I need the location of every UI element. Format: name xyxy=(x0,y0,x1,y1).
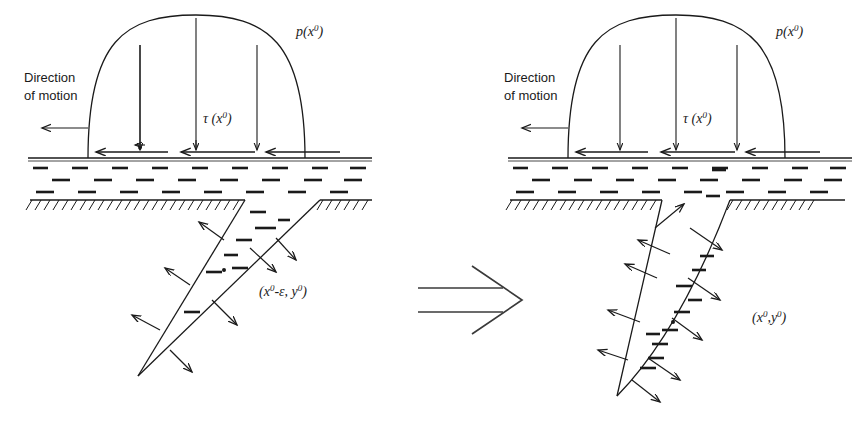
shear-label: τ (x0) xyxy=(683,110,712,127)
crack-point-marker xyxy=(671,320,675,324)
traction-arrows-right xyxy=(170,238,296,372)
crack-face-right xyxy=(617,200,730,396)
direction-of-motion-label-line2: of motion xyxy=(504,88,557,103)
direction-of-motion-label-line1: Direction xyxy=(504,70,555,85)
hatch-ticks xyxy=(506,200,656,210)
traction-arrows-left xyxy=(598,204,684,360)
figure-canvas: Direction of motion p(x0) τ (x0) (x0-ε, … xyxy=(0,0,862,437)
after-panel xyxy=(506,15,852,402)
diagram-svg: Direction of motion p(x0) τ (x0) (x0-ε, … xyxy=(0,0,862,437)
direction-of-motion-label-line1: Direction xyxy=(24,70,75,85)
hatch-ticks xyxy=(727,200,814,210)
crack-point-label: (x0-ε, y0) xyxy=(259,283,307,300)
traction-arrows-left xyxy=(132,222,224,330)
hatch-ticks xyxy=(26,200,239,210)
pressure-label: p(x0) xyxy=(775,23,803,40)
hatch-ticks xyxy=(317,200,368,210)
before-panel xyxy=(26,15,372,376)
direction-of-motion-label-line2: of motion xyxy=(24,88,77,103)
shear-label: τ (x0) xyxy=(203,110,232,127)
crack-point-label: (x0,y0) xyxy=(752,309,787,326)
crack-point-marker xyxy=(222,268,226,272)
crack-face-left xyxy=(617,200,662,396)
implies-arrow xyxy=(418,266,522,334)
pressure-label: p(x0) xyxy=(295,23,323,40)
